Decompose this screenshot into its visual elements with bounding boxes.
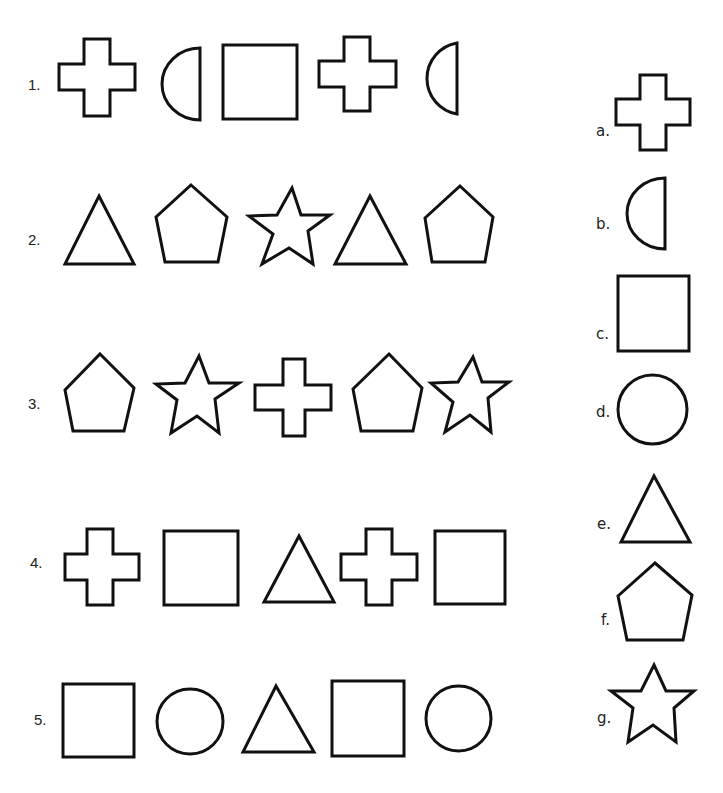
row-3-label: 3. [28, 395, 41, 412]
triangle-icon [64, 195, 135, 265]
square-icon [163, 530, 239, 606]
option-f-label: f. [601, 611, 610, 629]
triangle-icon [334, 195, 407, 265]
half-circle-icon [161, 47, 201, 121]
star-icon [248, 187, 331, 265]
star-icon[interactable] [610, 664, 695, 743]
row-2-label: 2. [28, 231, 41, 248]
cross-icon [64, 528, 140, 606]
triangle-icon [242, 685, 315, 753]
row-4-label: 4. [30, 554, 43, 571]
triangle-icon [263, 535, 335, 603]
option-a-label: a. [596, 122, 610, 140]
square-icon [222, 44, 298, 120]
pentagon-icon[interactable] [617, 562, 693, 641]
option-b-label: b. [596, 215, 610, 233]
circle-icon[interactable] [617, 374, 688, 445]
star-icon [155, 355, 240, 434]
star-icon [430, 356, 510, 433]
option-e-label: e. [597, 515, 611, 533]
half-circle-icon [420, 42, 458, 115]
cross-icon[interactable] [615, 74, 691, 151]
option-c-label: c. [596, 325, 609, 343]
cross-icon [340, 528, 418, 606]
square-icon [331, 680, 405, 757]
square-icon [62, 683, 135, 758]
square-icon [434, 530, 506, 605]
cross-icon [58, 38, 136, 117]
row-1-label: 1. [28, 76, 41, 93]
pentagon-icon [64, 353, 135, 432]
pentagon-icon [155, 184, 228, 263]
option-d-label: d. [596, 403, 610, 421]
pentagon-icon [424, 185, 494, 263]
shape-pattern-worksheet: 1. 2. 3. 4. 5. [0, 0, 723, 793]
pentagon-icon [352, 353, 423, 432]
circle-icon [156, 688, 224, 755]
row-5-label: 5. [34, 711, 47, 728]
cross-icon [318, 36, 397, 112]
cross-icon [254, 358, 332, 437]
half-circle-icon[interactable] [626, 177, 666, 250]
triangle-icon[interactable] [620, 475, 691, 543]
square-icon[interactable] [617, 275, 690, 352]
circle-icon [425, 685, 492, 752]
